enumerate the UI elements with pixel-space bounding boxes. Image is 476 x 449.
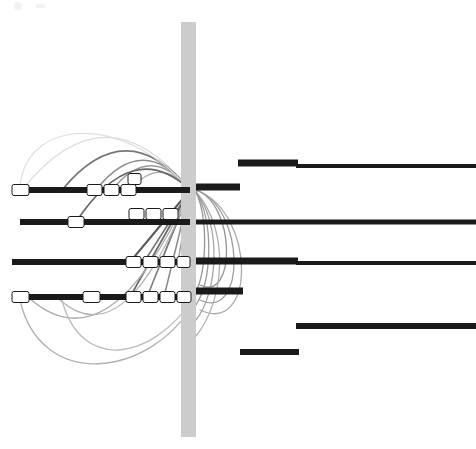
right-track-1b	[296, 164, 476, 168]
arc-1	[22, 137, 190, 190]
band-layer	[181, 22, 196, 437]
feature-box	[143, 257, 158, 268]
watermark-artifact	[14, 2, 45, 10]
feature-box	[104, 185, 119, 196]
arc-layer	[20, 133, 242, 363]
feature-box	[12, 292, 29, 303]
feature-box	[160, 257, 175, 268]
right-track-6	[296, 323, 476, 329]
synteny-diagram	[0, 0, 476, 449]
feature-box	[177, 292, 191, 303]
feature-box	[87, 185, 102, 196]
feature-box	[128, 174, 141, 185]
track-layer	[12, 160, 476, 356]
feature-box	[163, 209, 178, 220]
feature-box	[146, 209, 161, 220]
feature-box	[68, 217, 84, 228]
feature-box	[129, 209, 144, 220]
feature-box	[177, 257, 190, 268]
vertical-highlight-band	[181, 22, 196, 437]
right-track-3	[196, 220, 476, 225]
feature-box	[143, 292, 158, 303]
feature-box	[126, 257, 141, 268]
right-track-5	[196, 288, 243, 295]
feature-box	[160, 292, 175, 303]
right-track-1a	[238, 160, 298, 167]
feature-box	[12, 185, 29, 196]
right-track-2	[196, 184, 240, 191]
arc-sweep-outer	[20, 300, 196, 364]
feature-box	[83, 292, 100, 303]
watermark-bar	[36, 4, 45, 8]
right-track-7	[240, 349, 299, 355]
right-track-4a	[196, 258, 298, 265]
watermark-dot	[14, 2, 22, 10]
feature-box	[126, 292, 141, 303]
feature-box	[121, 185, 136, 196]
figure-canvas	[0, 0, 476, 449]
right-track-4b	[296, 261, 476, 265]
arc-sweep-inner	[62, 295, 196, 350]
